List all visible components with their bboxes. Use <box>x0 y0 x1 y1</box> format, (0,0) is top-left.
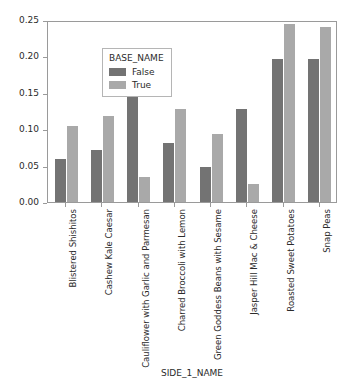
bar-true <box>212 134 223 202</box>
x-axis-title: SIDE_1_NAME <box>47 368 337 378</box>
x-axis-tick-mark <box>138 203 139 207</box>
x-axis-tick-label: Roasted Sweet Potatoes <box>287 209 296 312</box>
legend-entries: FalseTrue <box>109 66 164 91</box>
bar-group <box>302 22 338 202</box>
bar-true <box>248 184 259 202</box>
x-axis-tick-label: Green Goddess Beans with Sesame <box>214 209 223 360</box>
y-axis-tick-label: 0.15 <box>19 88 39 99</box>
bar-group <box>266 22 302 202</box>
bar-true <box>67 126 78 202</box>
x-axis-tick-mark <box>65 203 66 207</box>
bar-false <box>272 59 283 202</box>
bar-false <box>200 167 211 202</box>
y-axis-tick-label: 0.20 <box>19 51 39 62</box>
x-axis-tick-mark <box>210 203 211 207</box>
x-axis-tick-label: Charred Broccoli with Lemon <box>178 209 187 331</box>
bar-true <box>175 109 186 202</box>
bar-group <box>48 22 84 202</box>
bar-true <box>320 27 331 202</box>
y-axis-tick-label: 0.05 <box>19 161 39 172</box>
legend-entry: False <box>109 66 164 78</box>
bar-chart-figure: 0.000.050.100.150.200.25 BASE_NAME False… <box>0 0 357 391</box>
x-axis-tick-label: Blistered Shishitos <box>69 209 78 287</box>
bar-true <box>284 24 295 202</box>
x-axis-tick-label: Cashew Kale Caesar <box>105 209 114 295</box>
y-axis: 0.000.050.100.150.200.25 <box>0 21 47 203</box>
bar-true <box>103 116 114 202</box>
y-axis-tick-label: 0.10 <box>19 124 39 135</box>
bar-false <box>308 59 319 202</box>
bar-false <box>163 143 174 202</box>
y-axis-tick-label: 0.25 <box>19 15 39 26</box>
legend-entry: True <box>109 79 164 91</box>
legend-title: BASE_NAME <box>109 53 164 64</box>
x-axis-tick-mark <box>174 203 175 207</box>
bar-group <box>193 22 229 202</box>
x-axis-tick-label: Snap Peas <box>323 209 332 253</box>
bar-true <box>139 177 150 202</box>
bars-layer <box>48 22 336 202</box>
legend-label: True <box>132 80 151 90</box>
legend-swatch <box>109 81 126 89</box>
legend: BASE_NAME FalseTrue <box>102 48 172 97</box>
x-axis-tick-label: Jasper Hill Mac & Cheese <box>250 209 259 315</box>
legend-swatch <box>109 68 126 76</box>
x-axis-tick-label: Cauliflower with Garlic and Parmesan <box>142 209 151 368</box>
y-axis-tick-label: 0.00 <box>19 197 39 208</box>
bar-false <box>91 150 102 202</box>
bar-false <box>236 109 247 202</box>
x-axis-tick-mark <box>101 203 102 207</box>
legend-label: False <box>132 67 155 77</box>
x-axis-tick-mark <box>283 203 284 207</box>
x-axis-tick-mark <box>246 203 247 207</box>
bar-false <box>55 159 66 202</box>
bar-group <box>229 22 265 202</box>
plot-area: BASE_NAME FalseTrue <box>47 21 337 203</box>
x-axis-tick-labels: Blistered ShishitosCashew Kale CaesarCau… <box>47 209 337 359</box>
x-axis-tick-mark <box>319 203 320 207</box>
